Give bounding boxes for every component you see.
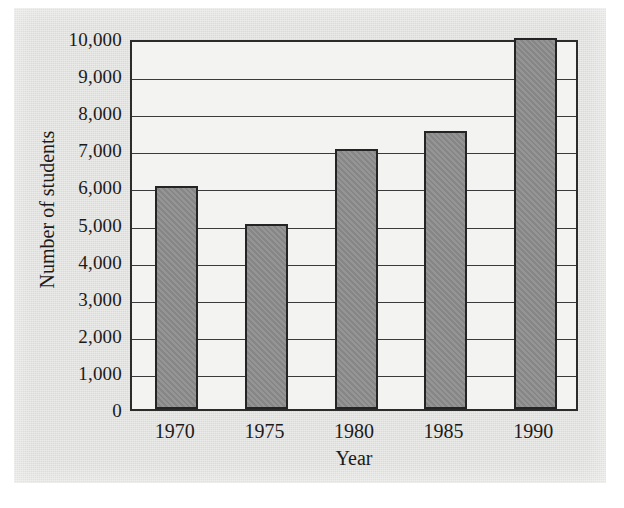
y-axis-tick-labels: 10,0009,0008,0007,0006,0005,0004,0003,00… — [0, 40, 122, 411]
x-axis-tick-labels: 19701975198019851990 — [130, 419, 578, 445]
y-tick-label: 3,000 — [2, 290, 122, 309]
x-axis-title: Year — [130, 447, 578, 470]
x-tick-label: 1975 — [219, 419, 309, 443]
x-tick-label: 1985 — [399, 419, 489, 443]
bar-series — [132, 42, 576, 409]
y-tick-label: 0 — [2, 401, 122, 420]
plot-area — [130, 40, 578, 411]
y-tick-label: 2,000 — [2, 327, 122, 346]
y-tick-label: 10,000 — [2, 30, 122, 49]
y-tick-label: 4,000 — [2, 253, 122, 272]
bar-chart-figure: Number of students 10,0009,0008,0007,000… — [0, 0, 624, 508]
bar-1980 — [335, 149, 378, 409]
bar-1975 — [245, 224, 288, 410]
y-tick-label: 5,000 — [2, 216, 122, 235]
y-tick-label: 9,000 — [2, 67, 122, 86]
y-tick-label: 7,000 — [2, 141, 122, 160]
x-tick-label: 1990 — [488, 419, 578, 443]
y-tick-label: 6,000 — [2, 178, 122, 197]
bar-1970 — [155, 186, 198, 409]
y-tick-label: 1,000 — [2, 364, 122, 383]
bar-1985 — [424, 131, 467, 409]
bar-1990 — [514, 38, 557, 409]
x-tick-label: 1980 — [309, 419, 399, 443]
y-tick-label: 8,000 — [2, 104, 122, 123]
x-tick-label: 1970 — [130, 419, 220, 443]
